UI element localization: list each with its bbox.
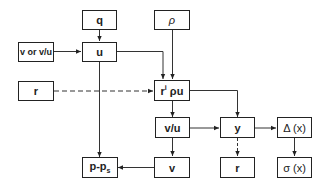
node-u: u (82, 42, 117, 62)
node-q: q (82, 10, 117, 30)
node-v: v (154, 157, 190, 178)
node-label: v (169, 162, 175, 174)
node-r-left: r (18, 81, 54, 101)
node-label: Δ (x) (283, 122, 306, 134)
node-p-minus-ps: p-ps (82, 157, 118, 178)
node-v-or-vu: v or v/u (18, 42, 54, 62)
node-y: y (220, 117, 255, 138)
node-label: ri ρu (161, 84, 184, 97)
node-r-bottom: r (220, 157, 255, 178)
label-subscript: s (107, 168, 111, 175)
node-rho: ρ (154, 10, 190, 30)
node-delta-x: Δ (x) (277, 117, 312, 138)
label-base: p-p (89, 160, 106, 172)
node-label: u (96, 46, 103, 58)
node-label: σ (x) (283, 162, 306, 174)
node-label: v or v/u (20, 47, 52, 57)
node-label: v/u (165, 122, 181, 134)
edge-rirhou-y (190, 91, 238, 118)
node-label: q (96, 14, 103, 26)
node-v-over-u: v/u (155, 117, 190, 138)
node-ri-rho-u: ri ρu (154, 80, 190, 101)
node-label: y (234, 122, 240, 134)
node-sigma-x: σ (x) (277, 157, 312, 178)
label-rest: ρu (167, 85, 184, 97)
node-label: p-ps (89, 160, 110, 174)
node-label: r (235, 162, 239, 174)
edge-u-rirhou (117, 52, 163, 80)
node-label: r (34, 85, 38, 97)
node-label: ρ (169, 14, 175, 26)
